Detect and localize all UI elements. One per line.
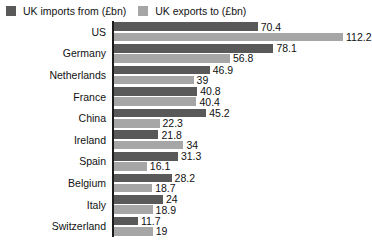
- legend-swatch-icon: [6, 6, 16, 16]
- bar-value-label: 16.1: [147, 161, 170, 172]
- bar-group: China45.222.3: [0, 107, 370, 129]
- bar-value-label: 112.2: [343, 31, 372, 42]
- bar-series-exports: 39: [114, 76, 194, 85]
- bar: [114, 109, 206, 118]
- bar-value-label: 34: [183, 139, 198, 150]
- bar: [114, 217, 138, 226]
- bar: [114, 184, 152, 193]
- bar-series-exports: 22.3: [114, 119, 160, 128]
- bar-value-label: 39: [194, 75, 209, 86]
- category-label: Ireland: [74, 134, 106, 145]
- category-label: Switzerland: [52, 221, 106, 232]
- bar: [114, 97, 196, 106]
- bar-value-label: 31.3: [178, 151, 201, 162]
- category-label: France: [73, 91, 106, 102]
- category-label: Netherlands: [49, 69, 106, 80]
- bar-series-exports: 40.4: [114, 97, 196, 106]
- bar: [114, 162, 147, 171]
- bar-series-exports: 18.7: [114, 184, 152, 193]
- bar-value-label: 18.9: [153, 204, 176, 215]
- category-label: Germany: [63, 48, 106, 59]
- bar: [114, 141, 183, 150]
- category-label: Italy: [87, 199, 106, 210]
- bar: [114, 66, 210, 75]
- bar-group: Netherlands46.939: [0, 64, 370, 86]
- bar-group: Germany78.156.8: [0, 43, 370, 65]
- bar: [114, 33, 343, 42]
- bar-group: Italy2418.9: [0, 194, 370, 216]
- bar-value-label: 46.9: [210, 64, 233, 75]
- bar: [114, 119, 160, 128]
- bar-value-label: 78.1: [273, 43, 296, 54]
- legend-entry-imports: UK imports from (£bn): [6, 6, 126, 17]
- legend-entry-exports: UK exports to (£bn): [138, 6, 246, 17]
- bar-series-imports: 11.7: [114, 217, 138, 226]
- bar-value-label: 40.4: [196, 96, 219, 107]
- plot-area: US70.4112.2Germany78.156.8Netherlands46.…: [0, 21, 370, 239]
- bar-series-exports: 112.2: [114, 33, 343, 42]
- bar-series-imports: 46.9: [114, 66, 210, 75]
- bar-value-label: 45.2: [206, 108, 229, 119]
- bar-value-label: 56.8: [230, 53, 253, 64]
- bar-value-label: 18.7: [152, 183, 175, 194]
- chart-legend: UK imports from (£bn) UK exports to (£bn…: [6, 3, 258, 19]
- bar-group: Switzerland11.719: [0, 215, 370, 237]
- bar: [114, 76, 194, 85]
- bar: [114, 205, 153, 214]
- category-label: Spain: [79, 156, 106, 167]
- category-label: US: [91, 26, 106, 37]
- bar: [114, 54, 230, 63]
- category-label: Belgium: [68, 177, 106, 188]
- bar-series-imports: 45.2: [114, 109, 206, 118]
- bar-group: Ireland21.834: [0, 129, 370, 151]
- bar: [114, 87, 197, 96]
- bar: [114, 22, 258, 31]
- bar-group: Belgium28.218.7: [0, 172, 370, 194]
- bar-series-exports: 18.9: [114, 205, 153, 214]
- bar: [114, 227, 153, 236]
- bar-series-exports: 34: [114, 141, 183, 150]
- bar-value-label: 70.4: [258, 21, 281, 32]
- bar-group: Spain31.316.1: [0, 151, 370, 173]
- bar-series-exports: 19: [114, 227, 153, 236]
- bar-value-label: 22.3: [160, 118, 183, 129]
- legend-swatch-icon: [138, 6, 148, 16]
- bar-value-label: 21.8: [158, 129, 181, 140]
- legend-label-exports: UK exports to (£bn): [155, 6, 246, 17]
- bar: [114, 130, 158, 139]
- bar-value-label: 19: [153, 226, 168, 237]
- bar-group: France40.840.4: [0, 86, 370, 108]
- bar-series-imports: 21.8: [114, 130, 158, 139]
- bar-series-exports: 16.1: [114, 162, 147, 171]
- legend-label-imports: UK imports from (£bn): [23, 6, 126, 17]
- bar-series-imports: 70.4: [114, 22, 258, 31]
- category-label: China: [79, 113, 106, 124]
- bar-group: US70.4112.2: [0, 21, 370, 43]
- bar-series-exports: 56.8: [114, 54, 230, 63]
- bar-series-imports: 40.8: [114, 87, 197, 96]
